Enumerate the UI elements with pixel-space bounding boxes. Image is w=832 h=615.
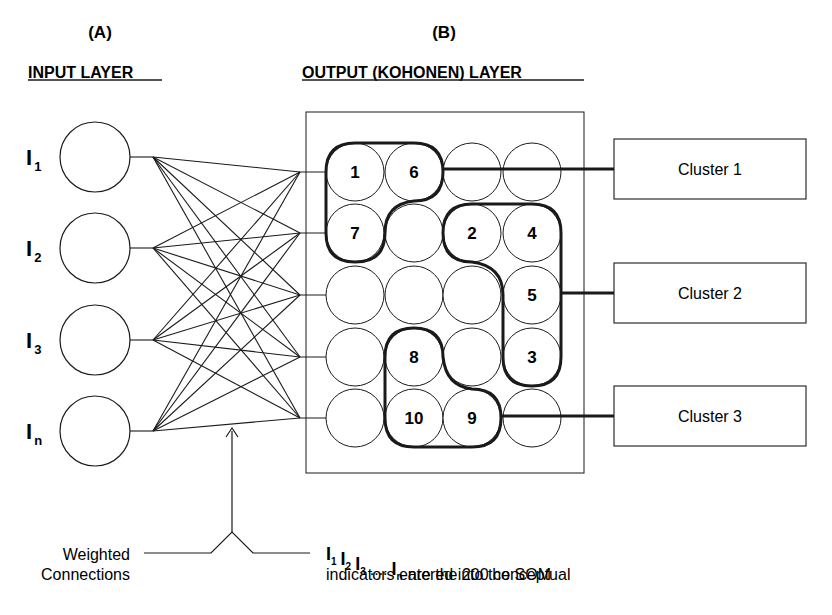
input-label-3: I3: [26, 328, 41, 357]
kohonen-node-label: 9: [467, 409, 476, 428]
kohonen-node: [326, 328, 384, 386]
kohonen-node: [503, 143, 561, 201]
panel-b-title: OUTPUT (KOHONEN) LAYER: [302, 64, 522, 81]
panel-b-tag: (B): [432, 23, 456, 42]
kohonen-node-label: 10: [405, 409, 424, 428]
kohonen-node: [443, 266, 501, 324]
weighted-connections: [130, 157, 326, 431]
input-label-2: I2: [26, 236, 41, 265]
kohonen-node-label: 4: [527, 224, 537, 243]
kohonen-node: [326, 266, 384, 324]
input-label-1: I1: [26, 145, 41, 174]
kohonen-node-label: 7: [350, 224, 359, 243]
weighted-label-line2: Connections: [41, 566, 130, 583]
kohonen-node: [326, 389, 384, 447]
indicators-line2: indicators entered into the SOM: [326, 566, 551, 583]
input-node-1: [60, 122, 130, 192]
weighted-label-line1: Weighted: [63, 546, 130, 563]
input-label-n: In: [26, 419, 42, 448]
kohonen-node-label: 2: [467, 224, 476, 243]
kohonen-node-label: 1: [350, 163, 359, 182]
weighted-connections-pointer: [144, 428, 310, 553]
kohonen-node: [503, 389, 561, 447]
input-node-2: [60, 213, 130, 283]
input-labels: I1I2I3In: [26, 145, 42, 448]
input-node-3: [60, 305, 130, 375]
panel-a-tag: (A): [88, 23, 112, 42]
som-diagram: (A) INPUT LAYER (B) OUTPUT (KOHONEN) LAY…: [0, 0, 832, 615]
cluster-label-2: Cluster 2: [678, 285, 742, 302]
input-nodes: [60, 122, 130, 466]
cluster-label-3: Cluster 3: [678, 408, 742, 425]
pointer-brace: [144, 532, 310, 553]
kohonen-node: [385, 266, 443, 324]
cluster-boxes: Cluster 1Cluster 2Cluster 3: [614, 139, 806, 446]
kohonen-node-label: 3: [527, 348, 536, 367]
kohonen-grid: 16724583109: [326, 143, 561, 447]
kohonen-node-label: 6: [409, 163, 418, 182]
kohonen-node: [385, 204, 443, 262]
panel-a-title: INPUT LAYER: [28, 64, 134, 81]
input-node-n: [60, 396, 130, 466]
kohonen-node-label: 5: [527, 286, 536, 305]
kohonen-node-label: 8: [409, 348, 418, 367]
kohonen-node: [443, 143, 501, 201]
cluster-label-1: Cluster 1: [678, 161, 742, 178]
